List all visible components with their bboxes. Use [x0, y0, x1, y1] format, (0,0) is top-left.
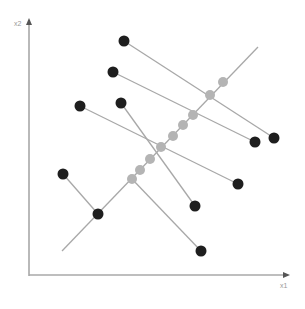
data-point: [269, 133, 280, 144]
data-point: [108, 67, 119, 78]
projected-point: [156, 142, 166, 152]
projection-segment: [121, 103, 195, 206]
projected-point: [205, 90, 215, 100]
data-point: [233, 179, 244, 190]
data-points: [58, 36, 280, 257]
projection-segment: [113, 72, 255, 142]
data-point: [75, 101, 86, 112]
projection-segment: [132, 179, 201, 251]
projection-diagram: x1 x2: [0, 0, 305, 309]
y-axis-label: x2: [14, 20, 22, 27]
projection-lines: [62, 41, 274, 251]
projected-point: [127, 174, 137, 184]
diagram-canvas: x1 x2: [0, 0, 305, 309]
data-point: [116, 98, 127, 109]
projected-point: [135, 165, 145, 175]
y-axis-arrow-icon: [26, 18, 32, 25]
projected-point: [188, 110, 198, 120]
data-point: [93, 209, 104, 220]
data-point: [58, 169, 69, 180]
projected-point: [168, 131, 178, 141]
x-axis-label: x1: [280, 282, 288, 289]
projection-segment: [124, 41, 274, 138]
projected-point: [218, 77, 228, 87]
data-point: [190, 201, 201, 212]
projection-segment: [63, 174, 98, 214]
x-axis-arrow-icon: [283, 272, 290, 278]
projected-point: [145, 154, 155, 164]
data-point: [196, 246, 207, 257]
data-point: [250, 137, 261, 148]
data-point: [119, 36, 130, 47]
projected-point: [178, 120, 188, 130]
